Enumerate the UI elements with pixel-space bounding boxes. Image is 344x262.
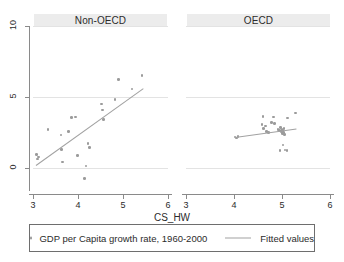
y-tick-label-2: 10: [5, 20, 21, 30]
x-tick-oecd-3: [330, 195, 331, 199]
x-tick-oecd-1: [234, 195, 235, 199]
x-tick-label-non-oecd-1: 4: [68, 200, 88, 210]
legend-label-line: Fitted values: [260, 233, 314, 244]
data-point: [272, 116, 275, 119]
x-tick-oecd-2: [282, 195, 283, 199]
y-tick-label-1: 5: [5, 91, 21, 101]
data-point: [286, 117, 289, 120]
data-point: [83, 177, 86, 180]
legend-marker-icon: [30, 237, 33, 240]
data-point: [294, 112, 297, 115]
data-point: [131, 88, 134, 91]
data-point: [286, 149, 289, 152]
x-tick-oecd-0: [186, 195, 187, 199]
legend-line-icon: [225, 238, 251, 239]
data-point: [37, 156, 40, 159]
data-point: [102, 118, 105, 121]
legend-inner: GDP per Capita growth rate, 1960-2000Fit…: [30, 233, 314, 244]
x-tick-label-non-oecd-2: 5: [113, 200, 133, 210]
data-point: [100, 103, 103, 106]
data-point: [47, 128, 50, 131]
data-point: [101, 109, 104, 112]
gridline-y-oecd-1: [186, 97, 330, 98]
data-point: [262, 115, 265, 118]
y-tick-text-0: 0: [8, 164, 18, 169]
y-tick-text-1: 5: [8, 93, 18, 98]
y-tick-2: [25, 26, 29, 27]
y-tick-0: [25, 168, 29, 169]
data-point: [262, 127, 265, 130]
data-point: [74, 116, 77, 119]
plot-area-oecd: [186, 26, 330, 190]
data-point: [87, 142, 90, 145]
x-tick-non-oecd-3: [168, 195, 169, 199]
data-point: [261, 123, 264, 126]
data-point: [85, 165, 88, 168]
data-point: [273, 122, 276, 125]
legend-entry-line[interactable]: Fitted values: [207, 233, 314, 244]
x-tick-non-oecd-0: [33, 195, 34, 199]
gridline-y-oecd-2: [186, 26, 330, 27]
figure-root: Non-OECD05103456OECD3456CS_HWGDP per Cap…: [0, 0, 344, 262]
gridline-y-non-oecd-2: [33, 26, 168, 27]
x-tick-label-oecd-3: 6: [320, 200, 340, 210]
gridline-y-oecd-0: [186, 168, 330, 169]
panel-header-non-oecd: Non-OECD: [34, 14, 167, 26]
x-tick-non-oecd-2: [123, 195, 124, 199]
y-tick-label-0: 0: [5, 162, 21, 172]
panel-header-oecd: OECD: [187, 14, 330, 26]
x-tick-non-oecd-1: [78, 195, 79, 199]
data-point: [76, 154, 79, 157]
data-point: [61, 161, 64, 164]
legend-entry-scatter[interactable]: GDP per Capita growth rate, 1960-2000: [30, 233, 207, 244]
x-tick-label-non-oecd-3: 6: [158, 200, 178, 210]
data-point: [283, 133, 286, 136]
gridline-y-non-oecd-1: [33, 97, 168, 98]
x-tick-label-oecd-0: 3: [176, 200, 196, 210]
data-point: [117, 78, 120, 81]
data-point: [114, 98, 117, 101]
x-axis-line-oecd: [182, 194, 334, 195]
gridline-y-non-oecd-0: [33, 168, 168, 169]
data-point: [36, 158, 39, 161]
data-point: [282, 144, 285, 147]
data-point: [70, 116, 73, 119]
y-tick-1: [25, 97, 29, 98]
legend: GDP per Capita growth rate, 1960-2000Fit…: [29, 224, 315, 252]
fitted-line-non-oecd: [35, 88, 143, 166]
x-tick-label-oecd-2: 5: [272, 200, 292, 210]
x-axis-title: CS_HW: [0, 212, 344, 223]
x-tick-label-non-oecd-0: 3: [23, 200, 43, 210]
x-tick-label-oecd-1: 4: [224, 200, 244, 210]
y-tick-text-2: 10: [8, 20, 18, 30]
data-point: [88, 146, 91, 149]
panel-title-non-oecd: Non-OECD: [34, 15, 167, 26]
data-point: [141, 74, 144, 77]
y-axis-line: [29, 26, 30, 191]
x-axis-line-non-oecd: [29, 194, 172, 195]
panel-title-oecd: OECD: [187, 15, 330, 26]
data-point: [67, 130, 70, 133]
data-point: [60, 134, 63, 137]
data-point: [279, 149, 282, 152]
legend-label-scatter: GDP per Capita growth rate, 1960-2000: [39, 233, 207, 244]
plot-area-non-oecd: [33, 26, 168, 190]
